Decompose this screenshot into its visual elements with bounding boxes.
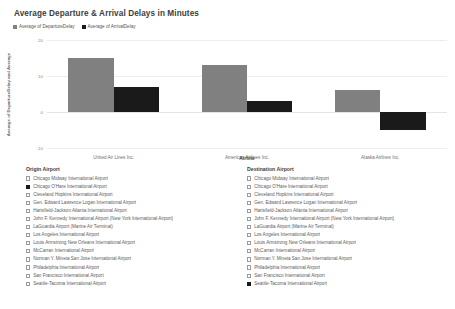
filter-list-item[interactable]: Chicago Midway International Airport bbox=[26, 175, 236, 183]
legend-swatch-icon bbox=[13, 25, 17, 29]
checkbox-unchecked-icon[interactable] bbox=[26, 282, 30, 286]
filter-list-item[interactable]: San Francisco International Airport bbox=[26, 272, 236, 280]
checkbox-unchecked-icon[interactable] bbox=[247, 241, 251, 245]
checkbox-unchecked-icon[interactable] bbox=[26, 217, 30, 221]
filter-list-item[interactable]: McCarran International Airport bbox=[247, 247, 455, 255]
chart-title: Average Departure & Arrival Delays in Mi… bbox=[14, 9, 199, 18]
filter-item-label: Philadelphia International Airport bbox=[254, 264, 320, 272]
x-axis-label: Airline bbox=[47, 155, 447, 161]
filter-list-item[interactable]: Louis Armstrong New Orleans Internationa… bbox=[26, 239, 236, 247]
checkbox-unchecked-icon[interactable] bbox=[26, 274, 30, 278]
filter-item-label: Louis Armstrong New Orleans Internationa… bbox=[254, 239, 356, 247]
filter-item-label: John F. Kennedy International Airport (N… bbox=[33, 215, 173, 223]
checkbox-unchecked-icon[interactable] bbox=[26, 257, 30, 261]
filter-list-item[interactable]: Hartsfield-Jackson Atlanta International… bbox=[26, 207, 236, 215]
filter-list-item[interactable]: Cleveland Hopkins International Airport bbox=[26, 191, 236, 199]
filter-item-label: McCarran International Airport bbox=[33, 247, 94, 255]
bar[interactable] bbox=[114, 87, 159, 112]
checkbox-unchecked-icon[interactable] bbox=[26, 225, 30, 229]
bar[interactable] bbox=[202, 65, 247, 112]
filter-item-label: Cleveland Hopkins International Airport bbox=[33, 191, 112, 199]
checkbox-unchecked-icon[interactable] bbox=[26, 249, 30, 253]
filter-item-label: Seattle-Tacoma International Airport bbox=[33, 280, 106, 288]
checkbox-unchecked-icon[interactable] bbox=[26, 209, 30, 213]
y-axis-tick-label: 0 bbox=[41, 110, 43, 115]
checkbox-unchecked-icon[interactable] bbox=[26, 265, 30, 269]
filter-list-item[interactable]: Los Angeles International Airport bbox=[26, 231, 236, 239]
filter-list-item[interactable]: John F. Kennedy International Airport (N… bbox=[247, 215, 455, 223]
checkbox-checked-icon[interactable] bbox=[247, 282, 251, 286]
destination-airport-filter: Destination Airport Chicago Midway Inter… bbox=[247, 166, 455, 288]
filter-item-label: Louis Armstrong New Orleans Internationa… bbox=[33, 239, 135, 247]
filter-item-label: Cleveland Hopkins International Airport bbox=[254, 191, 333, 199]
filter-item-label: Norman Y. Mineta San Jose International … bbox=[33, 255, 131, 263]
filter-list-item[interactable]: Hartsfield-Jackson Atlanta International… bbox=[247, 207, 455, 215]
origin-filter-title: Origin Airport bbox=[26, 166, 236, 172]
checkbox-unchecked-icon[interactable] bbox=[247, 176, 251, 180]
filter-item-label: Gen. Edward Lawrence Logan International… bbox=[33, 199, 136, 207]
filter-list-item[interactable]: Philadelphia International Airport bbox=[247, 264, 455, 272]
filter-item-label: Hartsfield-Jackson Atlanta International… bbox=[33, 207, 127, 215]
filter-item-label: Los Angeles International Airport bbox=[33, 231, 99, 239]
filter-item-label: Philadelphia International Airport bbox=[33, 264, 99, 272]
checkbox-unchecked-icon[interactable] bbox=[247, 193, 251, 197]
filter-list-item[interactable]: John F. Kennedy International Airport (N… bbox=[26, 215, 236, 223]
filter-item-label: Chicago O'Hare International Airport bbox=[33, 183, 107, 191]
y-axis-label: Average of DepartureDelay and Average bbox=[4, 40, 14, 148]
filter-list-item[interactable]: Norman Y. Mineta San Jose International … bbox=[26, 255, 236, 263]
checkbox-checked-icon[interactable] bbox=[26, 185, 30, 189]
filter-item-label: Chicago O'Hare International Airport bbox=[254, 183, 328, 191]
checkbox-unchecked-icon[interactable] bbox=[247, 225, 251, 229]
bar[interactable] bbox=[380, 112, 425, 130]
checkbox-unchecked-icon[interactable] bbox=[247, 257, 251, 261]
chart-legend: Average of DepartureDelayAverage of Arri… bbox=[13, 24, 136, 29]
legend-swatch-icon bbox=[82, 25, 86, 29]
filter-list-item[interactable]: Chicago Midway International Airport bbox=[247, 175, 455, 183]
filter-item-label: Hartsfield-Jackson Atlanta International… bbox=[254, 207, 348, 215]
checkbox-unchecked-icon[interactable] bbox=[26, 233, 30, 237]
filter-list-item[interactable]: LaGuardia Airport (Marine Air Terminal) bbox=[247, 223, 455, 231]
checkbox-unchecked-icon[interactable] bbox=[247, 274, 251, 278]
filter-item-label: San Francisco International Airport bbox=[254, 272, 324, 280]
gridline bbox=[47, 40, 447, 41]
filter-list-item[interactable]: Chicago O'Hare International Airport bbox=[247, 183, 455, 191]
filter-item-label: Chicago Midway International Airport bbox=[254, 175, 329, 183]
filter-list-item[interactable]: Norman Y. Mineta San Jose International … bbox=[247, 255, 455, 263]
filter-list-item[interactable]: Los Angeles International Airport bbox=[247, 231, 455, 239]
bar[interactable] bbox=[247, 101, 292, 112]
bar[interactable] bbox=[68, 58, 113, 112]
checkbox-unchecked-icon[interactable] bbox=[247, 201, 251, 205]
checkbox-unchecked-icon[interactable] bbox=[247, 209, 251, 213]
bar[interactable] bbox=[335, 90, 380, 112]
legend-entry[interactable]: Average of DepartureDelay bbox=[13, 24, 75, 29]
filter-list-item[interactable]: Chicago O'Hare International Airport bbox=[26, 183, 236, 191]
legend-label: Average of DepartureDelay bbox=[19, 24, 75, 29]
checkbox-unchecked-icon[interactable] bbox=[26, 176, 30, 180]
checkbox-unchecked-icon[interactable] bbox=[247, 185, 251, 189]
filter-list-item[interactable]: LaGuardia Airport (Marine Air Terminal) bbox=[26, 223, 236, 231]
filter-list-item[interactable]: Gen. Edward Lawrence Logan International… bbox=[26, 199, 236, 207]
checkbox-unchecked-icon[interactable] bbox=[26, 241, 30, 245]
y-axis-label-text: Average of DepartureDelay and Average bbox=[7, 52, 12, 135]
filter-list-item[interactable]: Louis Armstrong New Orleans Internationa… bbox=[247, 239, 455, 247]
filter-list-item[interactable]: Seattle-Tacoma International Airport bbox=[247, 280, 455, 288]
filter-list-item[interactable]: Gen. Edward Lawrence Logan International… bbox=[247, 199, 455, 207]
filter-list-item[interactable]: San Francisco International Airport bbox=[247, 272, 455, 280]
origin-airport-filter: Origin Airport Chicago Midway Internatio… bbox=[26, 166, 236, 288]
legend-entry[interactable]: Average of ArrivalDelay bbox=[82, 24, 136, 29]
checkbox-unchecked-icon[interactable] bbox=[247, 233, 251, 237]
origin-filter-list: Chicago Midway International AirportChic… bbox=[26, 175, 236, 288]
checkbox-unchecked-icon[interactable] bbox=[26, 193, 30, 197]
filter-list-item[interactable]: Cleveland Hopkins International Airport bbox=[247, 191, 455, 199]
filter-list-item[interactable]: Seattle-Tacoma International Airport bbox=[26, 280, 236, 288]
y-axis-tick-label: -10 bbox=[37, 146, 43, 151]
checkbox-unchecked-icon[interactable] bbox=[247, 265, 251, 269]
filter-list-item[interactable]: Philadelphia International Airport bbox=[26, 264, 236, 272]
checkbox-unchecked-icon[interactable] bbox=[247, 217, 251, 221]
filter-item-label: Gen. Edward Lawrence Logan International… bbox=[254, 199, 357, 207]
filter-item-label: Los Angeles International Airport bbox=[254, 231, 320, 239]
filter-list-item[interactable]: McCarran International Airport bbox=[26, 247, 236, 255]
checkbox-unchecked-icon[interactable] bbox=[26, 201, 30, 205]
filter-item-label: John F. Kennedy International Airport (N… bbox=[254, 215, 394, 223]
checkbox-unchecked-icon[interactable] bbox=[247, 249, 251, 253]
